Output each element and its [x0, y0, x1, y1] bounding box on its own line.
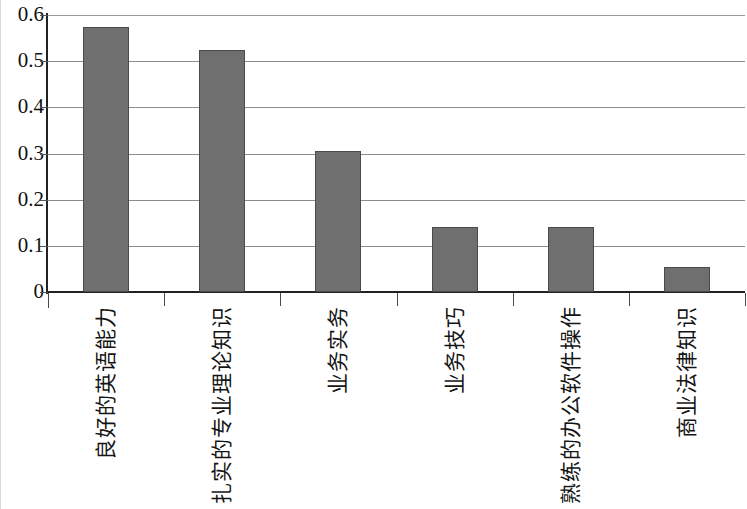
y-axis-tick-label: 0.2: [0, 189, 44, 210]
bar-chart: 0.60.50.40.30.20.10 良好的英语能力扎实的专业理论知识业务实务…: [0, 0, 747, 509]
y-axis-tick-label: 0.3: [0, 143, 44, 164]
x-axis-tick-mark: [280, 293, 281, 306]
x-axis-category-label: 业务实务: [327, 306, 350, 394]
bar[interactable]: [432, 227, 478, 292]
y-axis-tick-mark: [40, 107, 48, 108]
y-axis-tick-label: 0: [0, 281, 44, 302]
x-axis-tick-mark: [397, 293, 398, 306]
y-axis-tick-labels: 0.60.50.40.30.20.10: [0, 0, 44, 509]
x-axis-label-slot: 扎实的专业理论知识: [164, 292, 280, 509]
y-axis-tick-label: 0.4: [0, 96, 44, 117]
x-axis-category-label: 扎实的专业理论知识: [211, 306, 234, 504]
bar[interactable]: [199, 50, 245, 292]
bar-slot: [280, 15, 396, 292]
y-axis-tick-mark: [40, 292, 48, 293]
x-axis-label-slot: 良好的英语能力: [48, 292, 164, 509]
bar[interactable]: [315, 151, 361, 292]
x-axis-category-label: 熟练的办公软件操作: [559, 306, 582, 504]
y-axis-tick-mark: [40, 61, 48, 62]
y-axis-tick-mark: [40, 154, 48, 155]
bar[interactable]: [664, 267, 710, 292]
x-axis-origin-tick-mark: [48, 293, 49, 308]
x-axis-tick-mark: [629, 293, 630, 306]
bar-slot: [397, 15, 513, 292]
bar-slot: [164, 15, 280, 292]
x-axis-category-label: 业务技巧: [443, 306, 466, 394]
x-axis-tick-mark: [745, 293, 746, 306]
x-axis-category-label: 商业法律知识: [675, 306, 698, 438]
bar-slot: [513, 15, 629, 292]
y-axis-tick-mark: [40, 246, 48, 247]
x-axis-label-slot: 业务实务: [280, 292, 396, 509]
x-axis-tick-mark: [164, 293, 165, 306]
y-axis-tick-label: 0.1: [0, 235, 44, 256]
bar[interactable]: [548, 227, 594, 292]
x-axis-tick-mark: [513, 293, 514, 306]
x-axis-label-slot: 熟练的办公软件操作: [513, 292, 629, 509]
bar-slot: [629, 15, 745, 292]
y-axis-tick-label: 0.5: [0, 50, 44, 71]
x-axis-category-label: 良好的英语能力: [95, 306, 118, 460]
y-axis-tick-mark: [40, 15, 48, 16]
x-axis-category-labels: 良好的英语能力扎实的专业理论知识业务实务业务技巧熟练的办公软件操作商业法律知识: [48, 292, 745, 509]
plot-area: [48, 15, 745, 292]
bar[interactable]: [83, 27, 129, 292]
y-axis-tick-label: 0.6: [0, 4, 44, 25]
bar-slot: [48, 15, 164, 292]
x-axis-label-slot: 业务技巧: [397, 292, 513, 509]
x-axis-label-slot: 商业法律知识: [629, 292, 745, 509]
y-axis-tick-mark: [40, 200, 48, 201]
